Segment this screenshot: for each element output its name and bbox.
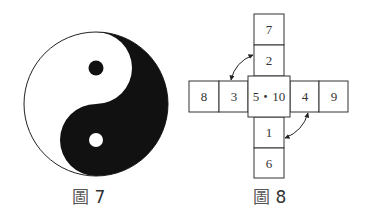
cell-label: 3 (231, 89, 238, 104)
caption-char: 圖 (72, 187, 89, 207)
cell-label: 7 (266, 22, 273, 37)
figure8-caption: 圖 8 (253, 183, 286, 208)
caption-number: 7 (94, 187, 105, 207)
yin-yang-symbol (24, 32, 168, 176)
cell-label: 8 (201, 89, 208, 104)
figures-canvas: 7 2 8 3 5・10 4 9 1 6 (0, 0, 366, 216)
caption-number: 8 (275, 187, 286, 207)
cell-label: 5・10 (253, 89, 286, 104)
cell-label: 9 (331, 89, 338, 104)
caption-char: 圖 (253, 187, 270, 207)
cell-label: 4 (302, 89, 309, 104)
figure7-caption: 圖 7 (72, 183, 105, 208)
cell-label: 2 (266, 53, 273, 68)
cell-label: 6 (266, 156, 273, 171)
cell-label: 1 (266, 125, 273, 140)
